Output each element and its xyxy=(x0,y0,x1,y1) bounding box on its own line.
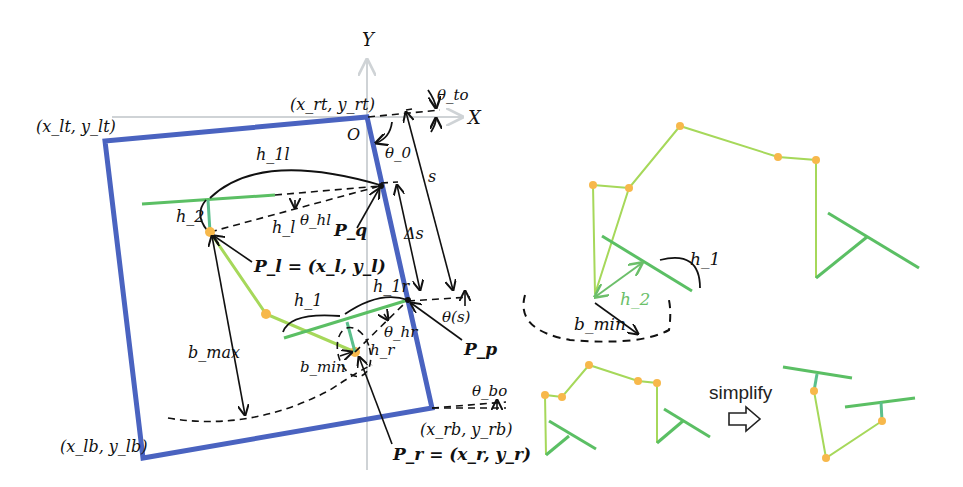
right-h1-label: h_1 xyxy=(690,249,720,269)
theta-0-annotation: θ_0 xyxy=(376,122,412,162)
left-panel: Y X O (x_lt, y_lt) (x_rt, y_rt) (x_lb, y… xyxy=(36,29,531,470)
node-mid xyxy=(261,309,271,319)
corner-left-bottom-label: (x_lb, y_lb) xyxy=(60,437,147,456)
delta-s-label: Δs xyxy=(403,224,424,243)
right-panel-detail: h_2 h_1 b_min xyxy=(523,122,919,342)
corner-left-top-label: (x_lt, y_lt) xyxy=(36,117,116,136)
theta-s-label: θ(s) xyxy=(442,308,471,326)
theta-0-label: θ_0 xyxy=(385,144,412,162)
pr-label: P_r = (x_r, y_r) xyxy=(392,444,531,464)
b-min-label: b_min xyxy=(300,358,346,376)
origin-label: O xyxy=(347,125,360,144)
s-label: s xyxy=(428,167,436,186)
s-dimension: s xyxy=(406,112,453,290)
hr-label: h_r xyxy=(370,341,395,359)
theta-to-label: θ_to xyxy=(437,86,469,104)
simplify-illustration: simplify xyxy=(541,361,915,462)
h2-label: h_2 xyxy=(176,207,204,226)
x-axis-label: X xyxy=(466,107,482,128)
corner-right-top-label: (x_rt, y_rt) xyxy=(290,95,375,114)
pl-label: P_l = (x_l, y_l) xyxy=(253,256,386,276)
point-pl: P_l = (x_l, y_l) xyxy=(214,236,386,276)
right-b-min-label: b_min xyxy=(574,314,626,334)
theta-bo-annotation: θ_bo xyxy=(432,382,507,410)
pp-label: P_p xyxy=(463,339,497,359)
theta-bo-label: θ_bo xyxy=(472,382,507,400)
h1r-arc xyxy=(345,297,408,314)
theta-hr-label: θ_hr xyxy=(384,323,418,341)
simplify-label: simplify xyxy=(709,382,773,403)
h1l-arc xyxy=(210,170,380,198)
point-pq: P_q xyxy=(333,183,384,240)
pq-label: P_q xyxy=(333,220,367,240)
h1r-label: h_1r xyxy=(373,277,410,296)
right-h2-label: h_2 xyxy=(620,289,650,309)
theta-to-annotation: θ_to xyxy=(368,86,469,132)
lane-geometry-diagram: Y X O (x_lt, y_lt) (x_rt, y_rt) (x_lb, y… xyxy=(0,0,963,487)
after-simplify xyxy=(783,367,915,462)
point-pr: P_r = (x_r, y_r) xyxy=(359,357,531,464)
h1l-label: h_1l xyxy=(256,145,290,164)
theta-hl-label: θ_hl xyxy=(300,211,331,229)
hl-label: h_l xyxy=(272,218,295,237)
y-axis-label: Y xyxy=(362,29,376,50)
node-pl xyxy=(205,227,215,237)
h1-label: h_1 xyxy=(294,291,322,310)
simplify-arrow-icon xyxy=(729,407,760,431)
before-simplify xyxy=(541,361,710,455)
corner-right-bottom-label: (x_rb, y_rb) xyxy=(420,420,513,439)
b-max-label: b_max xyxy=(188,343,240,362)
